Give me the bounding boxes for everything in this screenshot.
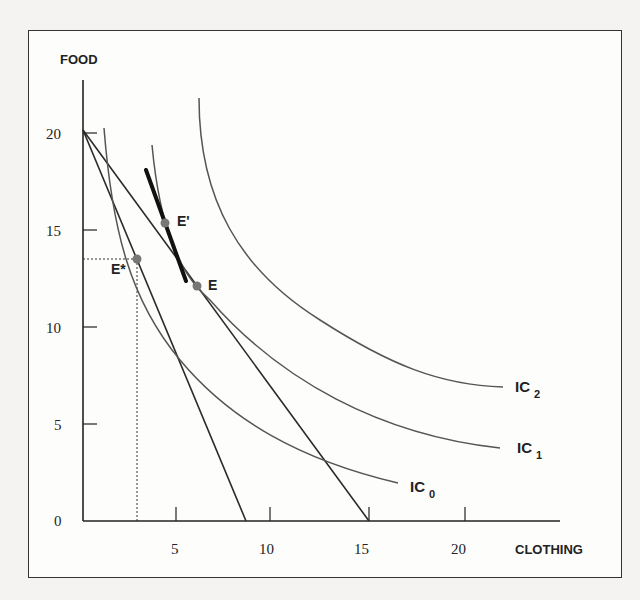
y-tick-5: 5 — [54, 417, 62, 433]
e-star-projection — [83, 259, 137, 521]
point-e-star — [133, 255, 142, 264]
indifference-curve-diagram: 20 15 10 5 0 5 10 15 20 FOOD CLOTHING E'… — [0, 0, 640, 600]
label-e-prime: E' — [177, 213, 190, 229]
x-tick-15: 15 — [354, 541, 369, 557]
svg-text:0: 0 — [429, 488, 435, 500]
label-ic1: IC 1 — [517, 439, 542, 461]
point-e-prime — [161, 219, 170, 228]
x-ticks — [176, 507, 465, 521]
budget-line-flat — [83, 130, 369, 521]
y-ticks — [83, 133, 97, 424]
svg-text:IC: IC — [515, 378, 530, 395]
x-axis-title: CLOTHING — [515, 542, 583, 557]
x-tick-20: 20 — [451, 541, 466, 557]
label-e-star: E* — [111, 261, 126, 277]
point-e — [193, 282, 202, 291]
y-tick-0: 0 — [54, 513, 62, 529]
y-tick-15: 15 — [46, 223, 61, 239]
label-e: E — [208, 277, 217, 293]
y-tick-20: 20 — [46, 126, 61, 142]
svg-text:1: 1 — [536, 449, 542, 461]
svg-text:IC: IC — [517, 439, 532, 456]
svg-text:IC: IC — [410, 478, 425, 495]
y-tick-10: 10 — [46, 320, 61, 336]
budget-line-steep — [83, 130, 246, 521]
label-ic0: IC 0 — [410, 478, 435, 500]
x-tick-5: 5 — [171, 541, 179, 557]
y-axis-title: FOOD — [60, 52, 98, 67]
x-tick-10: 10 — [259, 541, 274, 557]
svg-text:2: 2 — [534, 388, 540, 400]
label-ic2: IC 2 — [515, 378, 540, 400]
ic2-curve — [199, 98, 503, 387]
